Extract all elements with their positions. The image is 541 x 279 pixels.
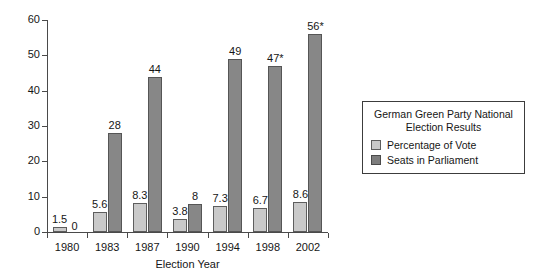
bar-1983-vote xyxy=(93,212,107,232)
legend-title-line-2: Election Results xyxy=(371,121,516,134)
y-tick-label-wrap: 60 xyxy=(0,14,40,25)
bar-1987-vote xyxy=(133,203,147,232)
bar-1983-seats xyxy=(108,133,122,232)
bar-1990-vote xyxy=(173,219,187,232)
bar-2002-seats xyxy=(308,34,322,232)
y-tick-30 xyxy=(42,126,47,127)
bar-value-label-1983-seats: 28 xyxy=(100,120,130,131)
bar-chart: 0102030405060 19801983198719901994199820… xyxy=(0,0,541,279)
y-tick-label-0: 0 xyxy=(4,226,40,237)
y-tick-label-wrap: 30 xyxy=(0,120,40,131)
y-tick-label-20: 20 xyxy=(4,155,40,166)
y-tick-label-50: 50 xyxy=(4,49,40,60)
bar-1994-vote xyxy=(213,206,227,232)
bar-2002-vote xyxy=(293,202,307,232)
y-tick-label-wrap: 40 xyxy=(0,85,40,96)
x-tick-label-1983: 1983 xyxy=(87,241,127,253)
bar-value-label-1980-seats: 0 xyxy=(60,221,90,232)
y-axis-line xyxy=(47,20,48,233)
x-tick-7 xyxy=(328,233,329,238)
bar-1998-vote xyxy=(253,208,267,232)
x-tick-label-1990: 1990 xyxy=(168,241,208,253)
x-tick-6 xyxy=(288,233,289,238)
x-tick-label-2002: 2002 xyxy=(288,241,328,253)
y-tick-label-60: 60 xyxy=(4,14,40,25)
y-tick-label-wrap: 0 xyxy=(0,226,40,237)
y-tick-10 xyxy=(42,197,47,198)
y-tick-20 xyxy=(42,161,47,162)
y-tick-label-wrap: 20 xyxy=(0,155,40,166)
y-tick-label-wrap: 50 xyxy=(0,49,40,60)
y-tick-label-30: 30 xyxy=(4,120,40,131)
x-tick-3 xyxy=(167,233,168,238)
x-tick-label-1998: 1998 xyxy=(248,241,288,253)
seats-swatch-icon xyxy=(371,155,381,165)
legend-label-percentage-of-vote: Percentage of Vote xyxy=(387,139,476,151)
bar-1987-seats xyxy=(148,77,162,232)
legend-item-seats-in-parliament: Seats in Parliament xyxy=(371,154,516,166)
x-tick-0 xyxy=(47,233,48,238)
y-tick-label-40: 40 xyxy=(4,85,40,96)
y-tick-60 xyxy=(42,20,47,21)
y-tick-label-10: 10 xyxy=(4,191,40,202)
bar-1994-seats xyxy=(228,59,242,232)
chart-legend: German Green Party National Election Res… xyxy=(362,101,525,174)
legend-title: German Green Party National Election Res… xyxy=(371,108,516,134)
bar-1998-seats xyxy=(268,66,282,232)
bar-value-label-1994-seats: 49 xyxy=(220,46,250,57)
vote-swatch-icon xyxy=(371,140,381,150)
bar-value-label-1998-seats: 47* xyxy=(260,53,290,64)
x-tick-label-1987: 1987 xyxy=(127,241,167,253)
x-tick-label-1994: 1994 xyxy=(208,241,248,253)
y-tick-50 xyxy=(42,55,47,56)
legend-title-line-1: German Green Party National xyxy=(371,108,516,121)
y-tick-40 xyxy=(42,91,47,92)
x-tick-4 xyxy=(208,233,209,238)
x-tick-1 xyxy=(87,233,88,238)
legend-item-percentage-of-vote: Percentage of Vote xyxy=(371,139,516,151)
legend-label-seats-in-parliament: Seats in Parliament xyxy=(387,154,478,166)
bar-value-label-2002-seats: 56* xyxy=(300,21,330,32)
x-axis-line xyxy=(47,232,328,233)
x-tick-2 xyxy=(127,233,128,238)
y-tick-label-wrap: 10 xyxy=(0,191,40,202)
bar-1990-seats xyxy=(188,204,202,232)
x-tick-label-1980: 1980 xyxy=(47,241,87,253)
x-tick-5 xyxy=(248,233,249,238)
x-axis-title: Election Year xyxy=(47,258,328,270)
bar-value-label-1987-seats: 44 xyxy=(140,64,170,75)
